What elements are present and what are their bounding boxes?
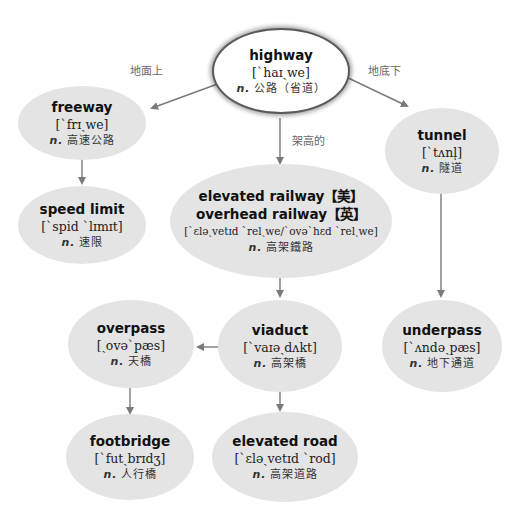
word: speed limit <box>40 200 125 218</box>
node-highway: highway [ˋhaɪˏwe] n.公路（省道） <box>212 28 350 114</box>
definition: n.天橋 <box>110 354 151 370</box>
node-elevated-road: elevated road [ˋɛləˏvetɪd ˋrod] n.高架道路 <box>212 412 358 502</box>
pronunciation: [ˏovəˋpæs] <box>97 337 165 354</box>
definition: n.人行橋 <box>103 467 156 483</box>
definition: n.高架鐵路 <box>248 240 313 256</box>
edge-label-above-ground: 地面上 <box>130 62 163 78</box>
node-speed-limit: speed limit [ˋspid ˋlɪmɪt] n.速限 <box>18 186 146 264</box>
node-overpass: overpass [ˏovəˋpæs] n.天橋 <box>68 300 194 388</box>
pronunciation: [ˋspid ˋlɪmɪt] <box>41 218 123 235</box>
word: freeway <box>52 98 113 116</box>
node-footbridge: footbridge [ˋfutˏbrɪdʒ] n.人行橋 <box>66 414 194 500</box>
definition: n.公路（省道） <box>236 81 325 97</box>
pronunciation: [ˋfutˏbrɪdʒ] <box>95 450 166 467</box>
word: viaduct <box>252 321 308 339</box>
definition: n.隧道 <box>421 161 462 177</box>
pronunciation: [ˋʌndəˏpæs] <box>404 339 481 356</box>
edge-label-elevated: 架高的 <box>292 132 325 148</box>
word: highway <box>249 46 312 64</box>
word: elevated road <box>232 432 338 450</box>
word: underpass <box>402 321 482 339</box>
definition: n.地下通道 <box>409 356 474 372</box>
pronunciation: [ˋhaɪˏwe] <box>252 64 310 81</box>
node-viaduct: viaduct [ˋvaɪəˏdʌkt] n.高架橋 <box>218 300 342 392</box>
pronunciation: [ˋɛləˏvetɪd ˋrod] <box>234 450 335 467</box>
definition: n.速限 <box>61 235 102 251</box>
definition: n.高速公路 <box>49 133 114 149</box>
pronunciation: [ˋvaɪəˏdʌkt] <box>243 339 317 356</box>
word: overpass <box>97 319 166 337</box>
node-tunnel: tunnel [ˋtʌnl̩] n.隧道 <box>385 108 499 194</box>
node-freeway: freeway [ˋfrɪˏwe] n.高速公路 <box>18 86 146 160</box>
word: footbridge <box>90 432 170 450</box>
word: tunnel <box>417 126 466 144</box>
node-underpass: underpass [ˋʌndəˏpæs] n.地下通道 <box>382 300 502 392</box>
word-uk: overhead railway【英】 <box>196 205 366 223</box>
definition: n.高架橋 <box>253 356 306 372</box>
pronunciation: [ˋɛləˏvetɪd ˋrelˏwe/ˋovəˋhɛd ˋrelˏwe] <box>184 223 378 240</box>
pronunciation: [ˋtʌnl̩] <box>422 144 462 161</box>
word-us: elevated railway【美】 <box>199 187 364 205</box>
pronunciation: [ˋfrɪˏwe] <box>56 116 109 133</box>
node-elevated-railway: elevated railway【美】 overhead railway【英】 … <box>170 164 392 278</box>
definition: n.高架道路 <box>252 467 317 483</box>
edge-label-underground: 地底下 <box>368 62 401 78</box>
